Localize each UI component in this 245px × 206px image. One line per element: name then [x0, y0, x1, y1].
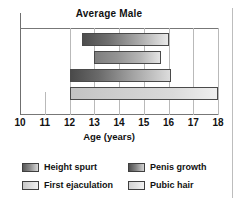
x-tick-label-10: 10: [14, 117, 25, 128]
x-tick-label-14: 14: [113, 117, 124, 128]
gridline-10: [20, 92, 21, 115]
plot-area: Average Male 101112131415161718 Age (yea…: [0, 0, 245, 130]
legend-item-height-spurt: Height spurt: [22, 162, 128, 172]
figure-right-border: [232, 8, 233, 198]
legend-swatch-height-spurt: [22, 163, 39, 172]
x-tick-label-18: 18: [212, 117, 223, 128]
legend-swatch-penis-growth: [128, 163, 145, 172]
x-tick-label-15: 15: [138, 117, 149, 128]
gridline-18: [218, 28, 219, 115]
legend-item-pubic-hair: Pubic hair: [128, 180, 228, 190]
legend-label: Height spurt: [44, 162, 97, 172]
x-tick-label-16: 16: [163, 117, 174, 128]
chart-title: Average Male: [0, 8, 218, 19]
gridline-17: [193, 28, 194, 115]
legend-swatch-first-ejaculation: [22, 181, 39, 190]
chart-legend: Height spurtPenis growthFirst ejaculatio…: [22, 158, 228, 194]
bar-height-spurt: [82, 33, 169, 46]
legend-item-penis-growth: Penis growth: [128, 162, 228, 172]
x-tick-label-11: 11: [39, 117, 50, 128]
legend-label: First ejaculation: [44, 180, 113, 190]
legend-item-first-ejaculation: First ejaculation: [22, 180, 128, 190]
x-tick-label-13: 13: [89, 117, 100, 128]
x-tick-label-17: 17: [188, 117, 199, 128]
x-tick-label-12: 12: [64, 117, 75, 128]
legend-label: Pubic hair: [150, 180, 194, 190]
bar-penis-growth: [94, 51, 161, 64]
gridline-11: [45, 92, 46, 115]
bar-first-ejaculation: [70, 69, 171, 82]
bar-pubic-hair: [70, 87, 219, 100]
x-axis-label: Age (years): [0, 131, 218, 142]
legend-label: Penis growth: [150, 162, 207, 172]
legend-swatch-pubic-hair: [128, 181, 145, 190]
chart-figure: Average Male 101112131415161718 Age (yea…: [0, 0, 245, 206]
